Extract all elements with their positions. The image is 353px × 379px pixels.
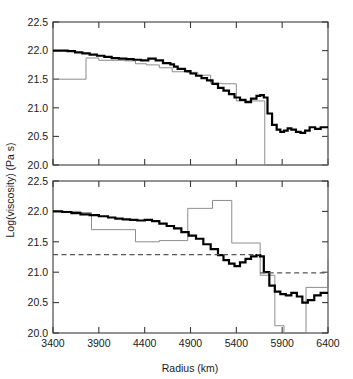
y-tick-label: 21.0: [28, 266, 49, 278]
y-tick-label: 21.5: [28, 73, 49, 85]
y-tick-label: 21.5: [28, 236, 49, 248]
x-tick-label: 4400: [133, 337, 157, 349]
x-tick-label: 5900: [270, 337, 294, 349]
y-tick-label: 21.0: [28, 102, 49, 114]
x-tick-label: 5400: [225, 337, 249, 349]
y-tick-label: 20.5: [28, 130, 49, 142]
x-axis-title: Radius (km): [162, 362, 219, 374]
panel-frame: [53, 181, 328, 333]
viscosity-profile-figure: 20.020.521.021.522.022.5 20.020.521.021.…: [0, 0, 353, 379]
y-tick-label: 22.0: [28, 205, 49, 217]
y-tick-label: 20.0: [28, 159, 49, 171]
plot-canvas: 20.020.521.021.522.022.5 20.020.521.021.…: [0, 0, 353, 379]
x-tick-label: 3400: [41, 337, 65, 349]
y-tick-label: 22.0: [28, 44, 49, 56]
top-panel: 20.020.521.021.522.022.5: [28, 16, 328, 171]
y-tick-label: 22.5: [28, 16, 49, 28]
y-tick-label: 22.5: [28, 175, 49, 187]
bottom-panel: 20.020.521.021.522.022.53400390044004900…: [28, 175, 340, 349]
thin-step-curve: [53, 200, 328, 333]
y-tick-label: 20.5: [28, 296, 49, 308]
x-tick-label: 3900: [87, 337, 111, 349]
y-axis-title: Log(viscosity) (Pa s): [4, 142, 16, 237]
thick-step-curve: [53, 51, 328, 133]
x-tick-label: 6400: [316, 337, 340, 349]
thick-step-curve: [53, 211, 328, 302]
x-tick-label: 4900: [179, 337, 203, 349]
panel-frame: [53, 22, 328, 165]
